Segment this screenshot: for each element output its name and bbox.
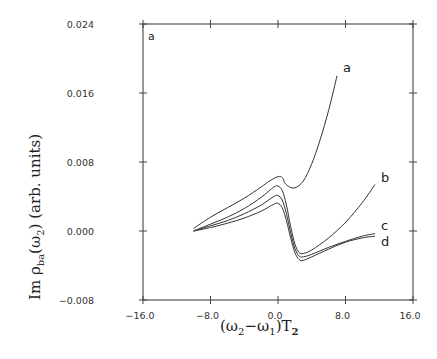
- curve-label-a: a: [343, 60, 351, 75]
- panel-label: a: [148, 30, 155, 43]
- x-axis-title: (ω2−ω1)T2: [220, 317, 299, 337]
- y-tick-label: 0.000: [67, 226, 94, 237]
- curve-label-d: d: [381, 234, 389, 249]
- y-tick-label: 0.016: [67, 88, 94, 99]
- y-tick-label: 0.008: [67, 157, 94, 168]
- y-tick-label: 0.024: [67, 19, 94, 30]
- curve-c: [194, 195, 375, 257]
- x-tick-label: −8.0: [196, 310, 219, 321]
- x-tick-label: −16.0: [125, 310, 154, 321]
- curve-b: [194, 184, 375, 253]
- y-tick-labels: 0.0240.0160.0080.000−0.008: [59, 19, 94, 306]
- chart-canvas: −16.0−8.00.08.016.0 0.0240.0160.0080.000…: [0, 0, 437, 359]
- x-tick-label: 16.0: [399, 310, 420, 321]
- curve-a: [194, 76, 337, 229]
- x-tick-label: 8.0: [335, 310, 350, 321]
- curve-labels: abcd: [343, 60, 389, 249]
- x-tick-labels: −16.0−8.00.08.016.0: [125, 310, 420, 321]
- plot-frame: [143, 24, 413, 300]
- y-axis-title: Im ρba(ω2) (arb. units): [26, 134, 46, 300]
- y-tick-label: −0.008: [59, 295, 94, 306]
- axis-ticks: [139, 20, 417, 304]
- curve-label-b: b: [381, 170, 389, 185]
- data-curves: [194, 76, 375, 261]
- curve-label-c: c: [381, 218, 388, 233]
